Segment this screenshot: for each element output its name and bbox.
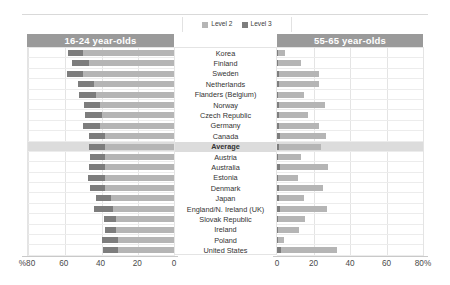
plot-area-right: [277, 47, 424, 257]
stacked-bar-left[interactable]: [94, 206, 175, 212]
category-row: Slovak Republic: [175, 214, 276, 224]
stacked-bar-left[interactable]: [103, 247, 175, 253]
stacked-bar-right[interactable]: [277, 112, 308, 118]
bar-row: [277, 69, 423, 79]
category-row: United States: [175, 245, 276, 255]
stacked-bar-left[interactable]: [96, 195, 175, 201]
category-row: Austria: [175, 152, 276, 162]
bar-row: [28, 131, 175, 141]
stacked-bar-right[interactable]: [277, 175, 298, 181]
stacked-bar-right[interactable]: [277, 237, 284, 243]
stacked-bar-right[interactable]: [277, 133, 326, 139]
stacked-bar-right[interactable]: [277, 216, 305, 222]
stacked-bar-right[interactable]: [277, 50, 285, 56]
stacked-bar-left[interactable]: [90, 185, 175, 191]
category-label: Estonia: [175, 173, 276, 183]
category-row: England/N. Ireland (UK): [175, 204, 276, 214]
stacked-bar-left[interactable]: [84, 102, 175, 108]
category-label: Average: [175, 142, 276, 152]
bar-segment-level-2: [96, 92, 175, 98]
stacked-bar-left[interactable]: [78, 81, 175, 87]
category-label: Sweden: [175, 69, 276, 79]
stacked-bar-left[interactable]: [83, 123, 175, 129]
stacked-bar-right[interactable]: [277, 206, 327, 212]
stacked-bar-right[interactable]: [277, 185, 323, 191]
stacked-bar-left[interactable]: [68, 50, 175, 56]
stacked-bar-left[interactable]: [102, 237, 175, 243]
bar-segment-level-2: [281, 247, 338, 253]
axis-tick-label: 80%: [415, 259, 431, 268]
stacked-bar-left[interactable]: [105, 227, 175, 233]
bar-segment-level-2: [280, 133, 327, 139]
axis-line-right: [273, 256, 428, 257]
legend-swatch-icon: [242, 22, 248, 28]
bar-segment-level-3: [83, 123, 100, 129]
bar-segment-level-3: [96, 195, 111, 201]
bar-segment-level-2: [279, 102, 325, 108]
stacked-bar-right[interactable]: [277, 227, 299, 233]
stacked-bar-left[interactable]: [104, 216, 175, 222]
bar-segment-level-3: [94, 206, 112, 212]
bar-row: [277, 79, 423, 89]
bar-segment-level-3: [102, 237, 118, 243]
stacked-bar-left[interactable]: [85, 112, 175, 118]
axis-tick-label: 0: [275, 259, 280, 268]
category-label: Finland: [175, 58, 276, 68]
bar-row: [277, 162, 423, 172]
stacked-bar-right[interactable]: [277, 144, 321, 150]
bar-row: [28, 204, 175, 214]
bar-segment-level-3: [103, 247, 118, 253]
category-label: Ireland: [175, 225, 276, 235]
stacked-bar-left[interactable]: [67, 71, 175, 77]
bar-row: [28, 245, 175, 255]
category-row: Flanders (Belgium): [175, 90, 276, 100]
bar-row: [277, 90, 423, 100]
bar-segment-level-2: [111, 195, 175, 201]
category-label: Netherlands: [175, 79, 276, 89]
stacked-bar-right[interactable]: [277, 247, 337, 253]
stacked-bar-left[interactable]: [89, 144, 175, 150]
stacked-bar-left[interactable]: [88, 175, 175, 181]
stacked-bar-right[interactable]: [277, 92, 304, 98]
category-row: Canada: [175, 131, 276, 141]
stacked-bar-left[interactable]: [79, 92, 175, 98]
bar-segment-level-2: [280, 164, 328, 170]
bar-segment-level-2: [105, 185, 175, 191]
legend-item-level-2[interactable]: Level 2: [202, 21, 232, 28]
bar-segment-level-3: [78, 81, 95, 87]
axis-ticks-left: %806040200: [0, 259, 188, 273]
stacked-bar-left[interactable]: [90, 154, 175, 160]
stacked-bar-right[interactable]: [277, 81, 319, 87]
category-label: Slovak Republic: [175, 214, 276, 224]
bar-row: [277, 193, 423, 203]
bar-row: [277, 183, 423, 193]
bar-segment-level-2: [105, 133, 175, 139]
stacked-bar-right[interactable]: [277, 60, 301, 66]
stacked-bar-left[interactable]: [89, 133, 175, 139]
category-label: Japan: [175, 193, 276, 203]
stacked-bar-right[interactable]: [277, 154, 301, 160]
stacked-bar-left[interactable]: [72, 60, 175, 66]
stacked-bar-left[interactable]: [89, 164, 175, 170]
bar-segment-level-3: [72, 60, 89, 66]
bar-segment-level-2: [279, 123, 319, 129]
bar-segment-level-2: [279, 112, 308, 118]
bar-segment-level-2: [278, 60, 301, 66]
category-row: Denmark: [175, 183, 276, 193]
category-label: United States: [175, 245, 276, 255]
stacked-bar-right[interactable]: [277, 102, 325, 108]
stacked-bar-right[interactable]: [277, 71, 319, 77]
bar-row: [28, 183, 175, 193]
stacked-bar-right[interactable]: [277, 195, 304, 201]
stacked-bar-right[interactable]: [277, 164, 328, 170]
chart-container: Level 2Level 3 16-24 year-olds 55-65 yea…: [0, 0, 450, 285]
axis-line-left: [22, 256, 178, 257]
legend-item-level-3[interactable]: Level 3: [242, 21, 272, 28]
bar-row: [277, 131, 423, 141]
stacked-bar-right[interactable]: [277, 123, 319, 129]
bar-segment-level-3: [89, 133, 106, 139]
bar-segment-level-2: [94, 81, 175, 87]
bar-row: [28, 110, 175, 120]
category-row: Average: [175, 142, 276, 152]
axis-ticks-right: 020406080%: [262, 259, 450, 273]
